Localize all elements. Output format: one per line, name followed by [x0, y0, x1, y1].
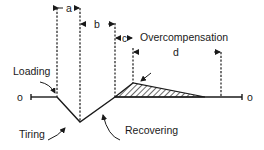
loading-label: Loading — [13, 65, 51, 77]
baseline-start — [31, 94, 57, 100]
baseline-start-label: o — [17, 91, 23, 103]
overcompensation-pointer-icon — [141, 73, 151, 81]
tiring-label: Tiring — [19, 128, 45, 140]
interval-a-label: a — [66, 2, 72, 14]
loading-pointer-icon — [40, 82, 55, 93]
interval-b-label: b — [94, 18, 100, 30]
interval-c-label: c — [122, 33, 127, 44]
baseline-end-label: o — [247, 91, 253, 103]
recovering-label: Recovering — [125, 124, 178, 136]
interval-d-label: d — [173, 46, 179, 58]
overcompensation-area — [115, 83, 205, 97]
supercompensation-diagram: a b c d Overcompensation Loading Tiring … — [0, 0, 264, 150]
overcompensation-label: Overcompensation — [140, 31, 228, 43]
tiring-pointer-icon — [48, 128, 65, 140]
fatigue-recovery-curve — [57, 97, 115, 122]
recovering-pointer-icon — [103, 115, 120, 140]
